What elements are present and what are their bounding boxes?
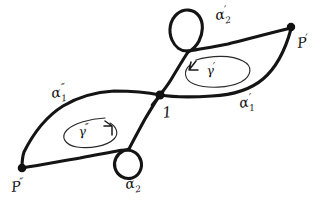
label-p-double-prime: P ″ [9, 175, 26, 195]
label-p-prime: P ′ [295, 31, 310, 51]
label-alpha-2-double-prime-mark: ″ [135, 172, 142, 186]
label-alpha-1-double-prime-sub: 1 [60, 93, 67, 104]
vertex-dot-p-prime [287, 23, 294, 30]
label-alpha-1-prime-mark: ′ [248, 91, 253, 104]
figure-canvas: P ′ 1 P ″ α 2 ′ α 1 ′ α 1 ″ α [0, 0, 327, 207]
label-p-prime-mark: ′ [305, 31, 310, 44]
label-alpha-1-prime-sub: 1 [248, 102, 255, 113]
label-gamma-double-prime-mark: ″ [84, 121, 90, 134]
label-alpha-1-prime: α 1 ′ [237, 91, 255, 115]
vertex-dot-p-double-prime [18, 164, 25, 171]
label-gamma-double-prime: γ ″ [78, 121, 92, 139]
hand-drawn-diagram: P ′ 1 P ″ α 2 ′ α 1 ′ α 1 ″ α [0, 0, 327, 207]
label-alpha-2-prime: α 2 ′ [214, 3, 232, 27]
label-alpha-2-prime-mark: ′ [224, 3, 229, 16]
arc-alpha-2-double-prime [22, 150, 126, 168]
cycle-oval-gamma-double-prime [64, 118, 117, 148]
label-basepoint: 1 [161, 103, 173, 122]
label-alpha-2-double-prime-sub: 2 [133, 184, 141, 195]
label-gamma-prime-mark: ′ [212, 60, 216, 73]
arc-alpha-2-double-prime-ascent [129, 95, 160, 149]
loop-top [170, 10, 202, 52]
vertex-dot-basepoint [156, 91, 164, 99]
label-alpha-1-double-prime: α 1 ″ [50, 81, 69, 105]
arc-alpha-2-prime-descent [160, 52, 188, 95]
label-p-double-prime-mark: ″ [19, 175, 26, 189]
label-alpha-1-double-prime-mark: ″ [61, 81, 68, 95]
label-gamma-prime: γ ′ [206, 60, 218, 78]
cycle-arrow-gamma-prime [189, 61, 198, 70]
label-alpha-2-double-prime: α 2 ″ [124, 172, 143, 196]
